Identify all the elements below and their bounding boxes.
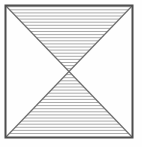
hatched-bowtie-diagram bbox=[0, 0, 142, 147]
figure-container bbox=[0, 0, 142, 147]
